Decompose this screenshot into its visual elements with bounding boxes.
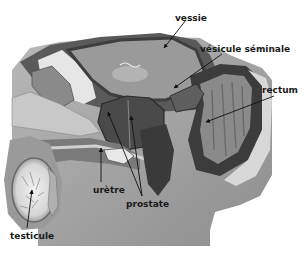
pelvis-cross-section-illustration	[0, 0, 306, 255]
label-uretre: urètre	[93, 186, 125, 195]
label-vesicule-seminale: vésicule séminale	[200, 45, 290, 54]
label-testicule: testicule	[10, 232, 54, 241]
bladder-highlight	[112, 66, 148, 82]
label-vessie: vessie	[175, 14, 207, 23]
label-prostate: prostate	[126, 200, 169, 209]
label-rectum: rectum	[262, 86, 298, 95]
